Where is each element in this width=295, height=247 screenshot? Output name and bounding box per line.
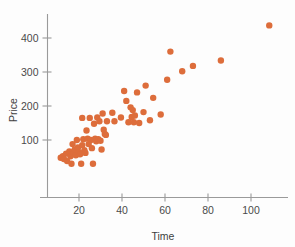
data-point <box>132 112 138 118</box>
x-tick-label: 100 <box>242 204 260 216</box>
data-point <box>109 110 115 116</box>
y-tick-label: 200 <box>21 100 39 112</box>
data-point <box>164 77 170 83</box>
y-axis-title: Price <box>7 98 19 122</box>
data-point <box>140 109 146 115</box>
data-point <box>123 98 129 104</box>
axes-group <box>40 14 288 198</box>
data-point <box>79 115 85 121</box>
data-point <box>74 137 80 143</box>
data-point <box>167 48 173 54</box>
data-point <box>97 137 103 143</box>
x-axis-ticks: 20406080100 <box>73 194 260 216</box>
data-point <box>78 161 84 167</box>
data-point <box>104 118 110 124</box>
data-point <box>121 88 127 94</box>
plot-canvas: 100200300400 20406080100 Time Price <box>0 0 295 247</box>
x-axis-title: Time <box>152 230 175 242</box>
data-points-group <box>58 22 273 167</box>
data-point <box>96 118 102 124</box>
data-point <box>142 82 148 88</box>
data-point <box>158 111 164 117</box>
data-point <box>82 150 88 156</box>
data-point <box>99 110 105 116</box>
data-point <box>118 114 124 120</box>
data-point <box>150 95 156 101</box>
y-tick-label: 400 <box>21 32 39 44</box>
x-tick-label: 40 <box>116 204 128 216</box>
y-axis-ticks: 100200300400 <box>21 32 52 146</box>
data-point <box>266 22 272 28</box>
data-point <box>68 161 74 167</box>
data-point <box>136 120 142 126</box>
y-tick-label: 300 <box>21 66 39 78</box>
data-point <box>90 161 96 167</box>
data-point <box>89 145 95 151</box>
scatter-plot-figure: 100200300400 20406080100 Time Price <box>0 0 295 247</box>
x-tick-label: 80 <box>202 204 214 216</box>
data-point <box>103 132 109 138</box>
data-point <box>147 117 153 123</box>
data-point <box>87 115 93 121</box>
data-point <box>111 118 117 124</box>
y-tick-label: 100 <box>21 134 39 146</box>
x-tick-label: 60 <box>159 204 171 216</box>
x-tick-label: 20 <box>73 204 85 216</box>
data-point <box>190 63 196 69</box>
data-point <box>131 119 137 125</box>
data-point <box>218 57 224 63</box>
data-point <box>83 127 89 133</box>
data-point <box>134 89 140 95</box>
data-point <box>130 107 136 113</box>
data-point <box>179 68 185 74</box>
data-point <box>98 146 104 152</box>
